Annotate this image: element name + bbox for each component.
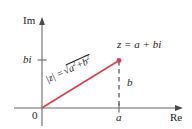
segment-b-label: b	[127, 77, 133, 88]
point-z-label: z = a + bi	[117, 39, 161, 50]
real-axis-tick-label: a	[116, 112, 122, 123]
real-axis-label: Re	[170, 112, 182, 123]
imaginary-axis-label: Im	[23, 15, 35, 26]
origin-label: 0	[32, 110, 38, 121]
imaginary-axis-tick-label: bi	[23, 54, 32, 65]
imaginary-axis-arrowhead	[39, 17, 45, 25]
point-z-marker	[117, 58, 122, 63]
